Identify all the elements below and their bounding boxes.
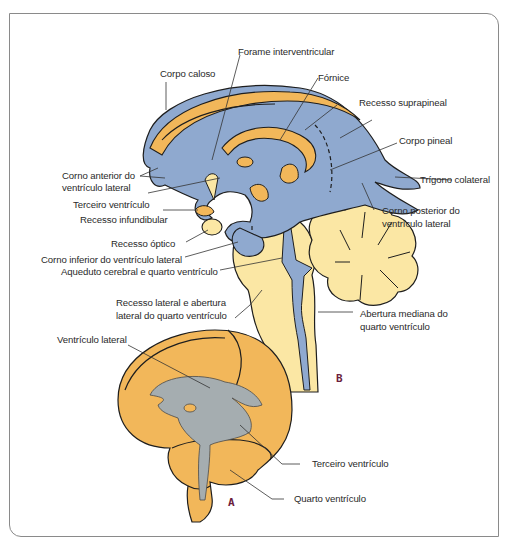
label-abertura-mediana-2: quarto ventrículo [360,321,430,333]
label-recesso-optico: Recesso óptico [111,238,175,250]
label-corno-inferior: Corno inferior do ventrículo lateral [41,254,182,266]
label-terceiro-ventriculo-b: Terceiro ventrículo [73,199,149,211]
label-aqueduto: Aqueduto cerebral e quarto ventrículo [61,266,218,278]
label-recesso-infundibular: Recesso infundibular [80,214,168,226]
pineal-area [280,164,298,183]
label-corno-anterior-2: ventrículo lateral [62,182,131,194]
label-quarto-ventriculo: Quarto ventrículo [294,493,366,505]
infundibular-recess [195,206,214,216]
label-terceiro-ventriculo-a: Terceiro ventrículo [312,458,388,470]
label-abertura-mediana-1: Abertura mediana do [360,308,448,320]
panel-letter-b: B [336,372,343,385]
label-recesso-lateral-1: Recesso lateral e abertura [116,297,226,309]
label-ventriculo-lateral: Ventrículo lateral [57,334,127,346]
label-trigono-colateral: Trígono colateral [420,174,490,186]
panel-letter-a: A [228,496,235,509]
label-forame-interventricular: Forame interventricular [238,46,334,58]
interthalamic-adhesion [237,157,253,167]
label-fornice: Fórnice [318,72,349,84]
label-corno-posterior-2: ventrículo lateral [382,218,451,230]
optic-recess [202,219,222,235]
label-corpo-pineal: Corpo pineal [399,135,452,147]
label-corno-posterior-1: Corno posterior do [382,205,460,217]
label-corpo-caloso: Corpo caloso [160,68,215,80]
label-recesso-suprapineal: Recesso suprapineal [359,97,447,109]
label-recesso-lateral-2: lateral do quarto ventrículo [116,310,227,322]
label-corno-anterior-1: Corno anterior do [62,170,135,182]
